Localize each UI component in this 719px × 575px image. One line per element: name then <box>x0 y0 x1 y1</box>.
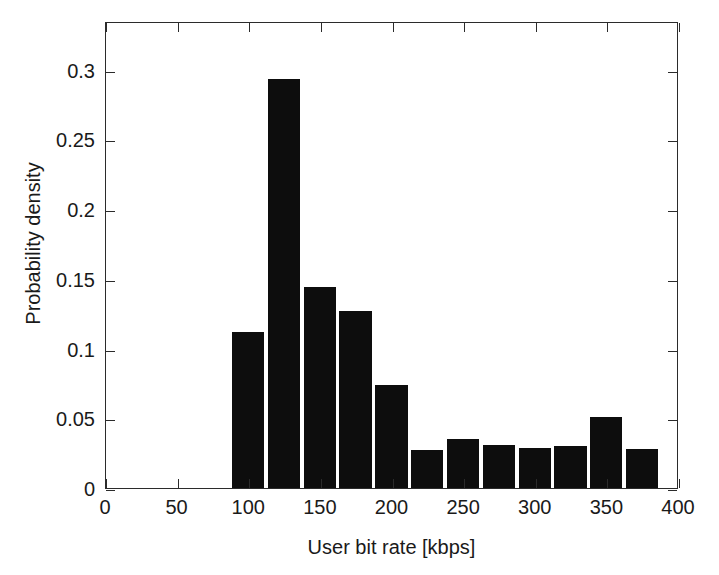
x-tick-label: 300 <box>518 497 551 517</box>
x-axis-tick <box>607 479 608 488</box>
x-tick-label: 150 <box>303 497 336 517</box>
x-axis-tick <box>679 479 680 488</box>
x-tick-label: 50 <box>166 497 188 517</box>
x-tick-label: 100 <box>232 497 265 517</box>
y-tick-label: 0.25 <box>56 130 95 150</box>
x-axis-tick <box>464 479 465 488</box>
y-axis-tick <box>106 211 115 212</box>
x-axis-tick-mirror <box>536 23 537 32</box>
y-axis-tick-mirror <box>668 72 677 73</box>
y-axis-tick <box>106 420 115 421</box>
x-axis-tick <box>106 479 107 488</box>
x-axis-tick <box>393 479 394 488</box>
x-axis-tick-mirror <box>178 23 179 32</box>
x-axis-tick-mirror <box>393 23 394 32</box>
x-axis-tick <box>178 479 179 488</box>
y-axis-tick-mirror <box>668 211 677 212</box>
histogram-bar <box>339 311 371 488</box>
y-axis-tick <box>106 490 115 491</box>
x-tick-label: 250 <box>446 497 479 517</box>
x-tick-label: 0 <box>99 497 110 517</box>
y-tick-label: 0.1 <box>67 340 95 360</box>
x-tick-label: 200 <box>375 497 408 517</box>
figure-canvas: 00.050.10.150.20.250.3 05010015020025030… <box>0 0 719 575</box>
y-axis-tick <box>106 351 115 352</box>
x-axis-tick <box>321 479 322 488</box>
y-axis-tick-mirror <box>668 490 677 491</box>
histogram-bar <box>232 332 264 488</box>
x-axis-title: User bit rate [kbps] <box>105 536 678 559</box>
x-axis-tick-mirror <box>321 23 322 32</box>
histogram-bar <box>590 417 622 488</box>
x-tick-label: 400 <box>661 497 694 517</box>
y-tick-label: 0.15 <box>56 270 95 290</box>
y-axis-title: Probability density <box>22 10 45 477</box>
y-tick-label: 0.3 <box>67 61 95 81</box>
y-tick-label: 0.05 <box>56 409 95 429</box>
histogram-bar <box>519 448 551 488</box>
y-axis-tick-mirror <box>668 420 677 421</box>
histogram-bar <box>375 385 407 488</box>
x-axis-tick-mirror <box>607 23 608 32</box>
plot-area <box>105 22 678 489</box>
x-axis-tick-mirror <box>249 23 250 32</box>
histogram-bar <box>411 450 443 488</box>
bars-layer <box>106 23 677 488</box>
y-tick-label: 0.2 <box>67 200 95 220</box>
y-tick-label-group: 00.050.10.150.20.250.3 <box>0 22 95 489</box>
y-axis-tick <box>106 72 115 73</box>
y-axis-tick-mirror <box>668 351 677 352</box>
histogram-bar <box>626 449 658 488</box>
y-tick-label: 0 <box>84 479 95 499</box>
histogram-bar <box>447 439 479 488</box>
histogram-bar <box>554 446 586 488</box>
x-axis-tick <box>249 479 250 488</box>
x-tick-label: 350 <box>590 497 623 517</box>
x-axis-tick-mirror <box>106 23 107 32</box>
histogram-bar <box>483 445 515 488</box>
y-axis-tick-mirror <box>668 141 677 142</box>
histogram-bar <box>304 287 336 488</box>
x-tick-label-group: 050100150200250300350400 <box>105 497 678 523</box>
x-axis-tick-mirror <box>679 23 680 32</box>
y-axis-tick <box>106 141 115 142</box>
x-axis-tick <box>536 479 537 488</box>
y-axis-tick-mirror <box>668 281 677 282</box>
histogram-bar <box>268 79 300 488</box>
x-axis-tick-mirror <box>464 23 465 32</box>
y-axis-tick <box>106 281 115 282</box>
